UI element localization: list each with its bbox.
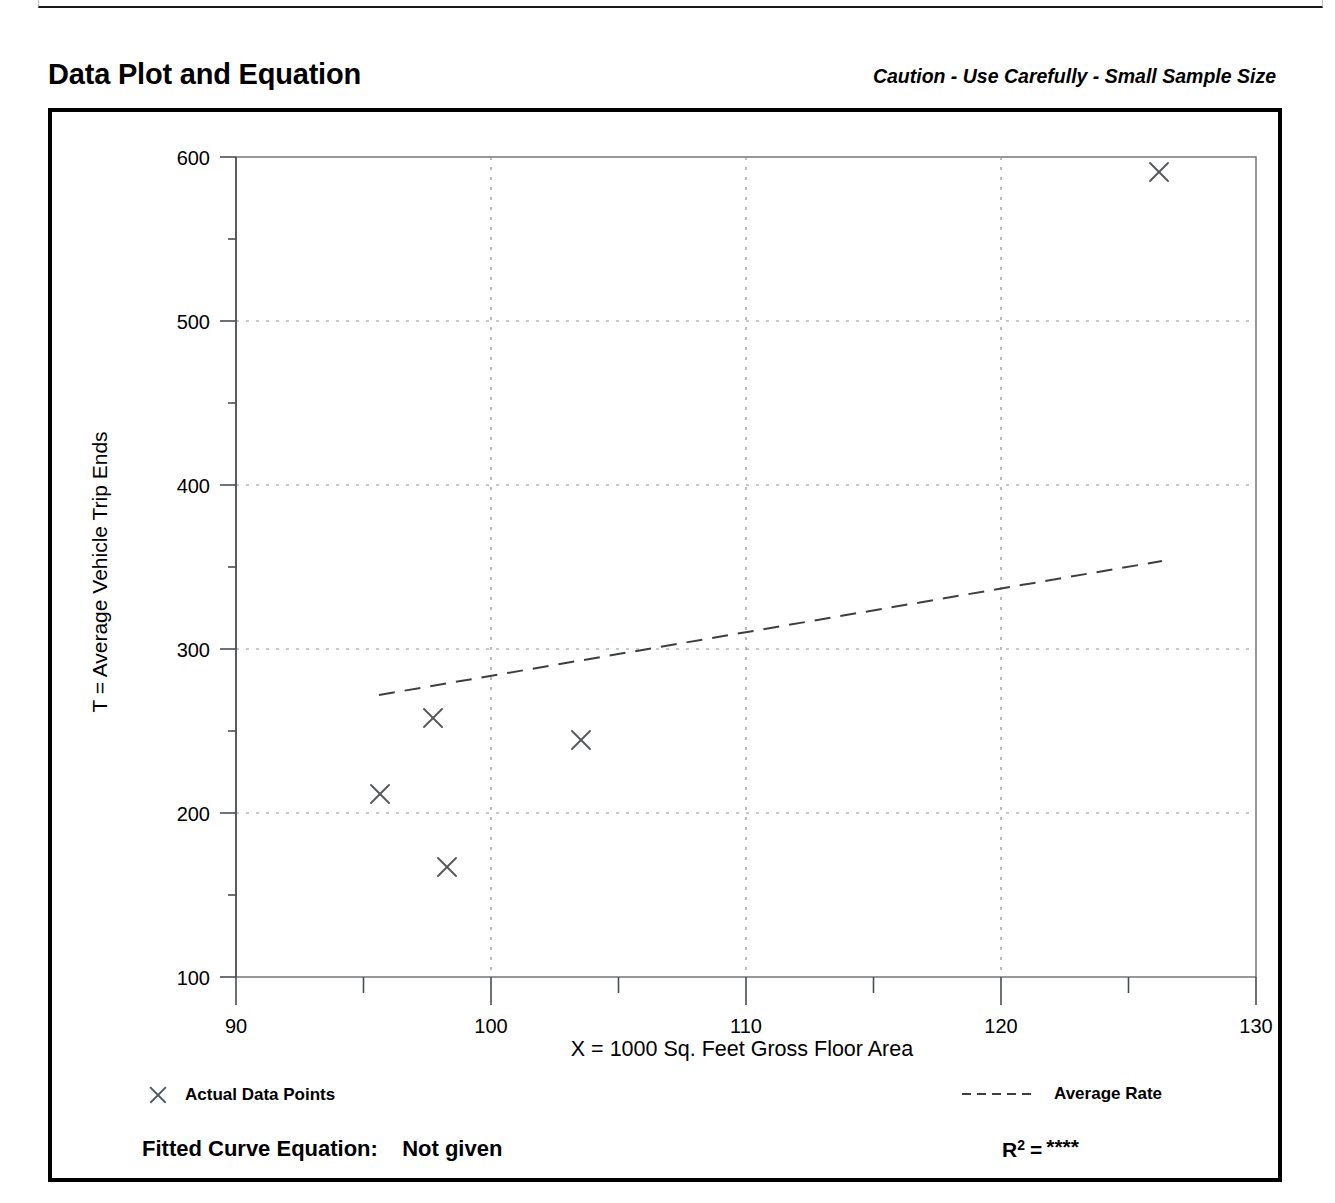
legend-actual-data-points: Actual Data Points	[147, 1084, 335, 1106]
r-squared-symbol: R	[1002, 1138, 1017, 1162]
legend-average-rate: Average Rate	[962, 1084, 1162, 1104]
y-axis-title: T = Average Vehicle Trip Ends	[88, 312, 112, 832]
header: Data Plot and Equation Caution - Use Car…	[48, 58, 1276, 98]
caution-note: Caution - Use Carefully - Small Sample S…	[873, 65, 1276, 88]
fitted-curve-equation-value: Not given	[402, 1136, 502, 1161]
y-tick-label: 200	[177, 803, 210, 825]
y-tick-label: 500	[177, 311, 210, 333]
r-squared-equals: =	[1030, 1138, 1042, 1162]
page-top-rule	[38, 0, 1323, 8]
dashed-line-icon	[962, 1093, 1034, 1095]
r-squared-exponent: 2	[1017, 1137, 1025, 1153]
x-tick-label: 120	[984, 1015, 1017, 1037]
y-tick-label: 400	[177, 475, 210, 497]
legend-label-actual-data-points: Actual Data Points	[185, 1085, 335, 1105]
fitted-curve-equation-label: Fitted Curve Equation:	[142, 1136, 378, 1161]
legend-label-average-rate: Average Rate	[1054, 1084, 1162, 1104]
x-axis-title: X = 1000 Sq. Feet Gross Floor Area	[232, 1037, 1252, 1062]
x-tick-labels: 90 100 110 120 130	[225, 1015, 1273, 1037]
chart-panel: 600 500 400 300 200 100 90 100 110 120 1…	[48, 108, 1282, 1182]
y-axis	[220, 157, 236, 977]
y-tick-label: 300	[177, 639, 210, 661]
page-title: Data Plot and Equation	[48, 58, 361, 91]
y-tick-label: 600	[177, 147, 210, 169]
scatter-plot-svg: 600 500 400 300 200 100 90 100 110 120 1…	[52, 112, 1286, 1186]
x-marker-icon	[147, 1084, 169, 1106]
chart-area: 600 500 400 300 200 100 90 100 110 120 1…	[52, 112, 1286, 1186]
y-tick-labels: 600 500 400 300 200 100	[177, 147, 210, 989]
x-tick-label: 130	[1239, 1015, 1272, 1037]
fitted-curve-equation: Fitted Curve Equation: Not given	[142, 1136, 502, 1162]
x-axis	[236, 977, 1256, 1005]
r-squared-number: ****	[1046, 1135, 1079, 1159]
x-tick-label: 90	[225, 1015, 247, 1037]
x-tick-label: 110	[730, 1015, 762, 1037]
x-tick-label: 100	[474, 1015, 507, 1037]
r-squared-value: R2=****	[1002, 1138, 1079, 1162]
y-tick-label: 100	[177, 967, 210, 989]
